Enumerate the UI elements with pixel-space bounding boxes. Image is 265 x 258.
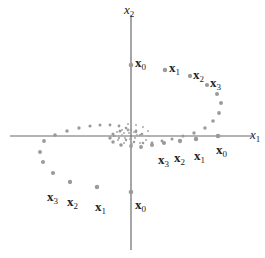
trajectory-point xyxy=(123,132,125,134)
x2-axis-label: x2 xyxy=(124,3,134,19)
trajectory-point xyxy=(51,171,55,175)
trajectory-point xyxy=(118,125,121,128)
trajectory-point xyxy=(65,129,68,132)
trajectory-point xyxy=(41,160,45,164)
trajectory-point xyxy=(127,123,129,125)
trajectory-lower-start xyxy=(38,123,141,194)
trajectory-point xyxy=(114,135,116,137)
trajectory-point xyxy=(42,139,46,143)
point-label-x3: x3 xyxy=(158,151,169,169)
trajectory-point xyxy=(139,142,141,144)
trajectory-point xyxy=(119,143,123,147)
trajectory-point xyxy=(203,126,206,129)
trajectory-point xyxy=(125,127,128,130)
trajectory-point xyxy=(145,139,147,141)
trajectory-point xyxy=(108,136,111,139)
trajectory-point xyxy=(127,129,129,131)
point-label-x1: x1 xyxy=(95,198,106,216)
trajectory-point xyxy=(129,63,134,68)
trajectory-point xyxy=(178,139,182,143)
trajectory-point xyxy=(188,74,192,78)
trajectory-point xyxy=(129,138,131,140)
trajectory-point xyxy=(147,130,149,132)
trajectory-point xyxy=(135,131,137,133)
trajectory-point xyxy=(117,139,119,141)
trajectory-point xyxy=(150,143,154,147)
trajectory-point xyxy=(131,143,133,145)
trajectory-point xyxy=(205,83,209,87)
point-label-x2: x2 xyxy=(174,149,185,167)
trajectory-point xyxy=(125,139,127,141)
trajectory-point xyxy=(219,101,223,105)
trajectory-point xyxy=(181,134,184,137)
point-label-x1: x1 xyxy=(194,147,205,165)
trajectory-point xyxy=(129,190,134,195)
trajectory-point xyxy=(217,111,221,115)
point-label-x0: x0 xyxy=(135,54,146,72)
point-label-x0: x0 xyxy=(216,141,227,159)
trajectory-point xyxy=(139,145,143,149)
trajectory-point xyxy=(121,134,123,136)
trajectory-point xyxy=(88,124,91,127)
trajectory-point xyxy=(211,119,215,123)
point-label-x1: x1 xyxy=(169,59,180,77)
trajectory-point xyxy=(192,131,195,134)
trajectory-point xyxy=(136,134,138,136)
trajectory-point xyxy=(95,185,99,189)
trajectory-point xyxy=(123,142,125,144)
trajectory-point xyxy=(128,132,130,134)
trajectory-point xyxy=(133,141,136,144)
trajectory-point xyxy=(215,92,219,96)
trajectory-point xyxy=(148,135,150,137)
trajectory-point xyxy=(38,150,42,154)
trajectory-point xyxy=(98,123,101,126)
trajectory-point xyxy=(216,134,221,139)
trajectory-point xyxy=(124,137,126,139)
trajectory-point xyxy=(142,142,145,145)
trajectory-point xyxy=(135,124,137,126)
trajectory-point xyxy=(139,134,141,136)
point-label-x0: x0 xyxy=(135,196,146,214)
trajectory-point xyxy=(111,140,114,143)
phase-portrait-diagram xyxy=(0,0,265,258)
trajectory-point xyxy=(142,126,144,128)
trajectory-point xyxy=(170,137,173,140)
x1-axis-label: x1 xyxy=(250,128,260,144)
trajectory-point xyxy=(77,126,80,129)
trajectory-point xyxy=(109,124,112,127)
trajectory-point xyxy=(133,131,135,133)
point-label-x3: x3 xyxy=(210,74,221,92)
trajectory-point xyxy=(162,141,166,145)
trajectory-point xyxy=(68,180,72,184)
trajectory-point xyxy=(134,137,136,139)
point-label-x2: x2 xyxy=(193,66,204,84)
point-label-x2: x2 xyxy=(67,193,78,211)
trajectory-point xyxy=(130,129,133,132)
trajectory-point xyxy=(116,131,118,133)
trajectory-point xyxy=(53,133,57,137)
point-label-x3: x3 xyxy=(47,188,58,206)
trajectory-point xyxy=(194,137,198,141)
trajectory-point xyxy=(121,129,123,131)
trajectory-point xyxy=(163,68,167,72)
trajectory-point xyxy=(118,137,120,139)
trajectory-point xyxy=(111,132,114,135)
